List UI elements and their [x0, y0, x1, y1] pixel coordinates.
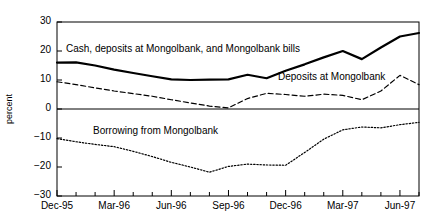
x-tick-label: Mar-96 [84, 200, 144, 211]
x-tick-label: Dec-96 [256, 200, 316, 211]
x-axis-tick-marks [57, 190, 419, 196]
chart-figure: percent 3020100−10−20−30 Dec-95Mar-96Jun… [0, 0, 440, 222]
y-tick-label: 20 [21, 44, 51, 55]
deposits-at-mongolbank-label: Deposits at Mongolbank [278, 71, 385, 82]
borrowing-from-mongolbank-label: Borrowing from Mongolbank [93, 125, 218, 136]
y-tick-label: −30 [21, 189, 51, 200]
line-chart-canvas [0, 0, 440, 222]
x-tick-label: Sep-96 [198, 200, 258, 211]
x-tick-label: Jun-97 [370, 200, 430, 211]
y-tick-label: −10 [21, 131, 51, 142]
y-tick-label: 10 [21, 73, 51, 84]
y-tick-label: −20 [21, 160, 51, 171]
cash-deposits-bills-label: Cash, deposits at Mongolbank, and Mongol… [66, 43, 300, 54]
y-tick-label: 0 [21, 102, 51, 113]
x-tick-label: Dec-95 [27, 200, 87, 211]
x-tick-label: Jun-96 [141, 200, 201, 211]
y-tick-label: 30 [21, 15, 51, 26]
x-tick-label: Mar-97 [313, 200, 373, 211]
y-axis-title: percent [4, 89, 14, 129]
